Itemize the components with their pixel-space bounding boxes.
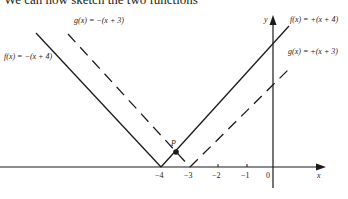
- tick-label: −3: [184, 171, 193, 180]
- label-f-positive: f(x) = +(x + 4): [290, 15, 339, 24]
- line-g-positive: [190, 68, 290, 167]
- line-f-negative: [36, 33, 161, 167]
- x-axis-label: x: [316, 171, 321, 180]
- line-f-positive: [161, 26, 289, 167]
- tick-label: −4: [155, 171, 164, 180]
- intersection-point-p: [173, 149, 179, 155]
- label-g-positive: g(x) = +(x + 3): [288, 47, 338, 56]
- y-axis-label: y: [263, 15, 268, 24]
- y-axis-arrow-icon: [270, 15, 277, 25]
- tick-label: 0: [266, 171, 270, 180]
- tick-label: −2: [212, 171, 221, 180]
- point-p-label: P: [170, 139, 176, 148]
- tick-label: −1: [241, 171, 250, 180]
- label-f-negative: f(x) = −(x + 4): [4, 52, 53, 61]
- label-g-negative: g(x) = −(x + 3): [74, 16, 124, 25]
- graph-figure: P f(x) = −(x + 4) g(x) = −(x + 3) f(x) =…: [0, 0, 348, 199]
- x-axis-arrow-icon: [316, 164, 326, 171]
